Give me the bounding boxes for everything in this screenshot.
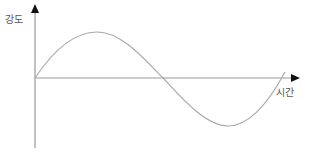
sine-wave-diagram xyxy=(0,0,315,160)
sine-curve xyxy=(35,32,285,126)
y-axis-label: 강도 xyxy=(5,11,23,26)
x-axis-arrow-icon xyxy=(291,74,300,82)
y-axis-arrow-icon xyxy=(31,4,39,13)
x-axis-label: 시간 xyxy=(276,84,294,99)
